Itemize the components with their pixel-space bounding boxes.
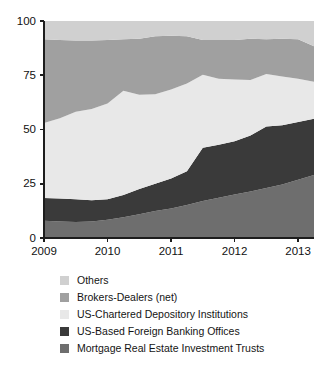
legend-swatch-mortgage-reits	[60, 344, 69, 353]
legend-item-others: Others	[0, 272, 326, 288]
legend-item-mortgage-reits: Mortgage Real Estate Investment Trusts	[0, 340, 326, 356]
y-tick-label: 25	[23, 177, 36, 189]
legend-label-us-chartered-depository: US-Chartered Depository Institutions	[77, 308, 248, 320]
legend-label-us-based-foreign-banking: US-Based Foreign Banking Offices	[77, 325, 240, 337]
x-axis-ticks: 20092010201120122013	[31, 238, 311, 257]
y-tick-label: 100	[17, 15, 36, 27]
chart-canvas: 0255075100 20092010201120122013	[0, 0, 326, 268]
area-series-group	[44, 21, 314, 238]
x-tick-label: 2011	[159, 245, 184, 257]
legend-swatch-us-chartered-depository	[60, 310, 69, 319]
x-tick-label: 2013	[285, 245, 311, 257]
legend-swatch-brokers-dealers	[60, 293, 69, 302]
x-tick-label: 2010	[95, 245, 121, 257]
x-tick-label: 2009	[31, 245, 57, 257]
legend-item-us-based-foreign-banking: US-Based Foreign Banking Offices	[0, 323, 326, 339]
stacked-area-chart: 0255075100 20092010201120122013 Others B…	[0, 0, 326, 366]
y-tick-label: 75	[23, 69, 36, 81]
legend-item-brokers-dealers: Brokers-Dealers (net)	[0, 289, 326, 305]
legend-label-others: Others	[77, 274, 109, 286]
y-tick-label: 50	[23, 123, 36, 135]
x-tick-label: 2012	[222, 245, 248, 257]
legend-label-brokers-dealers: Brokers-Dealers (net)	[77, 291, 177, 303]
y-axis-ticks: 0255075100	[17, 15, 44, 244]
y-tick-label: 0	[30, 232, 36, 244]
legend-swatch-others	[60, 276, 69, 285]
legend-label-mortgage-reits: Mortgage Real Estate Investment Trusts	[77, 342, 264, 354]
chart-legend: Others Brokers-Dealers (net) US-Chartere…	[0, 268, 326, 366]
plot-area: 0255075100 20092010201120122013	[0, 0, 326, 268]
legend-swatch-us-based-foreign-banking	[60, 327, 69, 336]
legend-item-us-chartered-depository: US-Chartered Depository Institutions	[0, 306, 326, 322]
